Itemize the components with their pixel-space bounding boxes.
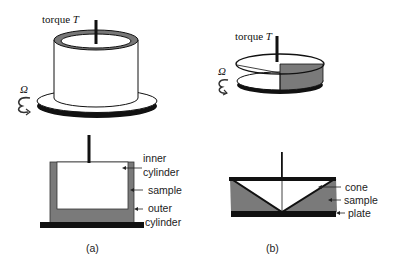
callout-plate: plate: [336, 207, 371, 219]
rotation-omega-label: Ω: [20, 83, 28, 95]
svg-text:outer: outer: [148, 202, 172, 214]
torque-shaft: [95, 20, 98, 44]
inner-cylinder: [57, 162, 128, 209]
caption-a: (a): [86, 242, 99, 254]
torque-label: torque T: [42, 13, 80, 25]
plate: [231, 211, 336, 217]
panel-a-3d-view: torque T Ω: [19, 13, 157, 118]
shaft: [88, 135, 91, 163]
rheometer-diagram: torque T Ω torque T Ω: [0, 0, 394, 268]
svg-text:cylinder: cylinder: [143, 166, 180, 178]
rotation-arrow-icon: [19, 98, 30, 115]
rotation-omega-label: Ω: [218, 65, 226, 77]
torque-shaft: [276, 36, 279, 62]
cone-top-disk: [236, 54, 324, 74]
panel-a-cross-section: inner cylinder sample outer cylinder (a): [40, 135, 182, 254]
svg-text:plate: plate: [348, 207, 371, 219]
svg-text:sample: sample: [344, 194, 378, 206]
svg-text:cone: cone: [345, 181, 368, 193]
rotation-arrow-icon: [219, 80, 228, 95]
callout-sample: sample: [130, 184, 182, 196]
shaft: [281, 152, 283, 178]
panel-b-cross-section: cone sample plate (b): [229, 152, 378, 254]
panel-b-3d-view: torque T Ω: [218, 30, 324, 95]
svg-text:sample: sample: [148, 184, 182, 196]
base-plate: [40, 222, 144, 228]
caption-b: (b): [266, 242, 279, 254]
svg-text:cylinder: cylinder: [145, 216, 182, 228]
svg-text:inner: inner: [143, 152, 167, 164]
torque-label: torque T: [235, 30, 273, 42]
